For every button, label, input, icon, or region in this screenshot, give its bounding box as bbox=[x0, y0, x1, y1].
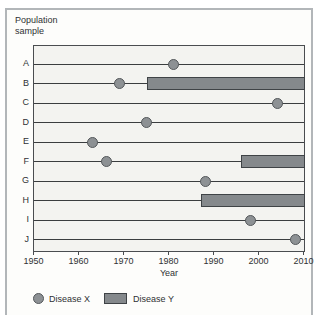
row-line-d bbox=[34, 122, 304, 123]
disease-x-point-c bbox=[272, 98, 283, 109]
row-label-b: B bbox=[7, 78, 29, 88]
disease-x-point-e bbox=[87, 137, 98, 148]
x-tick-1960 bbox=[78, 251, 79, 255]
disease-x-point-b bbox=[114, 78, 125, 89]
row-line-j bbox=[34, 239, 304, 240]
x-tick-label-1970: 1970 bbox=[109, 256, 139, 266]
disease-x-point-i bbox=[245, 215, 256, 226]
y-axis-title: Population sample bbox=[15, 15, 71, 37]
legend: Disease X Disease Y bbox=[33, 292, 188, 305]
x-tick-label-2000: 2000 bbox=[244, 256, 274, 266]
disease-x-point-j bbox=[290, 234, 301, 245]
x-tick-1950 bbox=[33, 251, 34, 255]
row-line-i bbox=[34, 220, 304, 221]
row-labels: ABCDEFGHIJ bbox=[7, 45, 29, 250]
disease-y-marker-icon bbox=[104, 293, 127, 304]
row-label-j: J bbox=[7, 234, 29, 244]
x-axis-label: Year bbox=[33, 268, 305, 278]
x-tick-2010 bbox=[303, 251, 304, 255]
disease-y-bar-h bbox=[201, 194, 306, 207]
row-label-g: G bbox=[7, 175, 29, 185]
legend-label-disease-x: Disease X bbox=[49, 294, 90, 304]
row-label-a: A bbox=[7, 58, 29, 68]
x-tick-label-1960: 1960 bbox=[64, 256, 94, 266]
disease-x-point-a bbox=[168, 59, 179, 70]
x-tick-label-1950: 1950 bbox=[19, 256, 49, 266]
x-tick-label-1980: 1980 bbox=[154, 256, 184, 266]
disease-y-bar-b bbox=[147, 77, 306, 90]
row-line-g bbox=[34, 181, 304, 182]
legend-label-disease-y: Disease Y bbox=[133, 294, 174, 304]
x-tick-2000 bbox=[258, 251, 259, 255]
disease-y-bar-f bbox=[241, 155, 305, 168]
x-tick-1990 bbox=[213, 251, 214, 255]
x-tick-1970 bbox=[123, 251, 124, 255]
x-tick-label-2010: 2010 bbox=[289, 256, 319, 266]
figure-frame: Population sample ABCDEFGHIJ 19501960197… bbox=[5, 8, 313, 315]
row-line-c bbox=[34, 103, 304, 104]
x-tick-label-1990: 1990 bbox=[199, 256, 229, 266]
legend-item-disease-y: Disease Y bbox=[104, 293, 174, 304]
x-tick-1980 bbox=[168, 251, 169, 255]
row-label-f: F bbox=[7, 156, 29, 166]
row-label-i: I bbox=[7, 214, 29, 224]
legend-item-disease-x: Disease X bbox=[33, 293, 90, 304]
row-label-c: C bbox=[7, 97, 29, 107]
row-label-e: E bbox=[7, 136, 29, 146]
row-label-d: D bbox=[7, 117, 29, 127]
disease-x-point-f bbox=[101, 156, 112, 167]
row-line-e bbox=[34, 142, 304, 143]
disease-x-marker-icon bbox=[33, 293, 44, 304]
plot-area bbox=[33, 45, 305, 252]
disease-x-point-g bbox=[200, 176, 211, 187]
disease-x-point-d bbox=[141, 117, 152, 128]
row-label-h: H bbox=[7, 195, 29, 205]
